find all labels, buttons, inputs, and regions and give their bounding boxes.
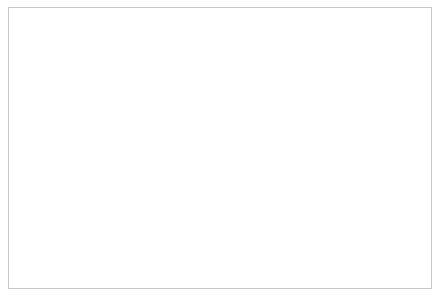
chart-figure: 210−1−2−3−4−5−6 05101520 Deviance from c… xyxy=(0,0,442,298)
figure-border xyxy=(8,7,432,289)
